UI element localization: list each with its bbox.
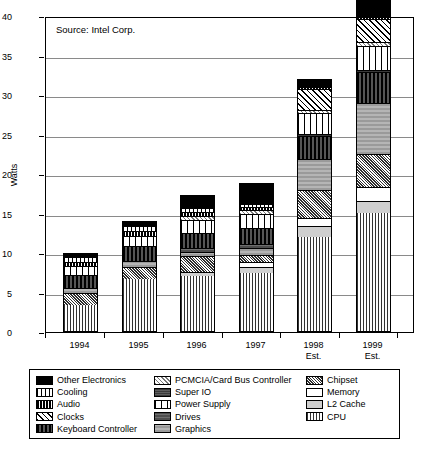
legend-label: Graphics — [175, 424, 211, 434]
x-label-year: 1999 — [362, 340, 382, 350]
bar-segment — [240, 273, 273, 331]
legend-item[interactable]: CPU — [306, 412, 393, 422]
legend-swatch-pcmcia-icon — [154, 376, 171, 385]
bar-segment — [298, 89, 331, 110]
legend-item[interactable]: Clocks — [36, 412, 154, 422]
y-axis-tick-label: 40 — [0, 12, 12, 22]
y-axis-tick — [39, 136, 44, 137]
legend-label: PCMCIA/Card Bus Controller — [175, 375, 292, 385]
legend-item[interactable]: Keyboard Controller — [36, 424, 154, 434]
bar-segment — [357, 103, 390, 153]
legend-item[interactable]: Memory — [306, 387, 393, 397]
x-axis-tick — [104, 333, 105, 338]
bar-segment — [240, 214, 273, 228]
x-label-year: 1998 — [303, 340, 323, 350]
legend: Other ElectronicsPCMCIA/Card Bus Control… — [29, 369, 400, 439]
bar-segment — [357, 72, 390, 103]
legend-label: Audio — [57, 399, 80, 409]
bar-segment — [298, 80, 331, 87]
legend-item[interactable]: Power Supply — [154, 399, 306, 409]
x-label-year: 1994 — [69, 340, 89, 350]
y-axis-tick-label: 0 — [0, 328, 12, 338]
bar-segment — [298, 190, 331, 218]
stacked-bar — [180, 195, 215, 332]
x-axis-tick-label: 1997 — [226, 340, 286, 351]
legend-label: CPU — [327, 412, 346, 422]
plot-area: Source: Intel Corp. — [45, 17, 414, 333]
legend-swatch-solid-black-icon — [36, 376, 53, 385]
y-axis-tick — [39, 96, 44, 97]
y-axis-tick-label: 25 — [0, 131, 12, 141]
legend-swatch-diag-fine-icon — [36, 412, 53, 421]
bar-segment — [64, 275, 97, 288]
legend-label: Chipset — [327, 375, 358, 385]
bar-segment — [64, 305, 97, 331]
y-axis-tick-label: 10 — [0, 249, 12, 259]
bar-segment — [240, 184, 273, 203]
legend-swatch-cpu-icon — [306, 412, 323, 421]
x-label-year: 1995 — [128, 340, 148, 350]
bar-segment — [357, 154, 390, 187]
y-axis-tick — [39, 215, 44, 216]
x-label-year: 1997 — [245, 340, 265, 350]
bar-segment — [123, 246, 156, 261]
legend-grid: Other ElectronicsPCMCIA/Card Bus Control… — [36, 374, 393, 435]
legend-label: Cooling — [57, 387, 88, 397]
y-axis-tick — [39, 175, 44, 176]
bar-segment — [298, 226, 331, 237]
x-axis-tick-label: 1999Est. — [343, 340, 403, 362]
bar-segment — [181, 256, 214, 272]
y-axis-tick-label: 20 — [0, 170, 12, 180]
bar-segment — [357, 46, 390, 70]
bar-segment — [240, 228, 273, 244]
legend-swatch-drives-icon — [154, 412, 171, 421]
legend-label: Clocks — [57, 412, 84, 422]
stacked-bar — [122, 221, 157, 332]
legend-item[interactable]: Graphics — [154, 424, 306, 434]
bar-segment — [181, 220, 214, 233]
legend-swatch-audio-icon — [36, 400, 53, 409]
bar-segment — [181, 276, 214, 331]
x-axis-tick-label: 1994 — [50, 340, 110, 351]
x-axis-tick-label: 1995 — [109, 340, 169, 351]
x-axis-tick — [280, 333, 281, 338]
legend-item[interactable]: Chipset — [306, 375, 393, 385]
x-label-estimate: Est. — [284, 351, 344, 362]
y-axis-tick-label: 30 — [0, 91, 12, 101]
legend-item[interactable]: Super IO — [154, 387, 306, 397]
y-axis-tick-label: 5 — [0, 289, 12, 299]
legend-swatch-psu-icon — [154, 400, 171, 409]
legend-swatch-l2-icon — [306, 400, 323, 409]
legend-item[interactable]: Cooling — [36, 387, 154, 397]
bar-segment — [298, 218, 331, 226]
bar-segment — [357, 187, 390, 201]
bar-segment — [123, 279, 156, 331]
x-label-estimate: Est. — [343, 351, 403, 362]
legend-item[interactable]: L2 Cache — [306, 399, 393, 409]
legend-item[interactable]: PCMCIA/Card Bus Controller — [154, 375, 306, 385]
legend-label: Keyboard Controller — [57, 424, 137, 434]
legend-item[interactable]: Audio — [36, 399, 154, 409]
bar-segment — [298, 237, 331, 331]
y-axis-tick — [39, 254, 44, 255]
y-axis-tick — [39, 57, 44, 58]
bar-segment — [298, 136, 331, 159]
bar-segment — [298, 113, 331, 134]
x-axis-tick — [397, 333, 398, 338]
legend-label: Memory — [327, 387, 360, 397]
bar-segment — [181, 233, 214, 248]
bar-segment — [357, 19, 390, 42]
legend-swatch-kbd-icon — [36, 424, 53, 433]
chart-page: Watts 0510152025303540 Source: Intel Cor… — [0, 0, 429, 460]
bar-segment — [357, 201, 390, 214]
source-annotation: Source: Intel Corp. — [56, 24, 135, 35]
bar-segment — [240, 255, 273, 263]
legend-item[interactable]: Drives — [154, 412, 306, 422]
legend-item[interactable]: Other Electronics — [36, 375, 154, 385]
bar-segment — [298, 159, 331, 190]
x-label-year: 1996 — [186, 340, 206, 350]
x-axis-tick — [163, 333, 164, 338]
x-axis-tick — [222, 333, 223, 338]
legend-swatch-superio-icon — [154, 388, 171, 397]
bar-segment — [181, 196, 214, 208]
